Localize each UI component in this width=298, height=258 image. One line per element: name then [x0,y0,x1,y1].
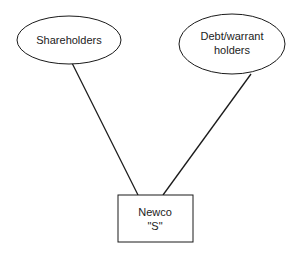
debt-warrant-holders-label-line2: holders [214,44,251,56]
newco-label-line2: "S" [147,220,162,232]
newco-box [118,195,193,242]
edge-debt-holders-to-newco [163,74,251,195]
edge-shareholders-to-newco [72,63,138,195]
debt-warrant-holders-label-line1: Debt/warrant [201,30,264,42]
node-shareholders: Shareholders [17,16,121,64]
shareholders-label: Shareholders [36,34,102,46]
node-newco: Newco "S" [118,195,193,242]
ownership-diagram: Shareholders Debt/warrant holders Newco … [0,0,298,258]
node-debt-warrant-holders: Debt/warrant holders [179,14,285,74]
newco-label-line1: Newco [138,206,172,218]
